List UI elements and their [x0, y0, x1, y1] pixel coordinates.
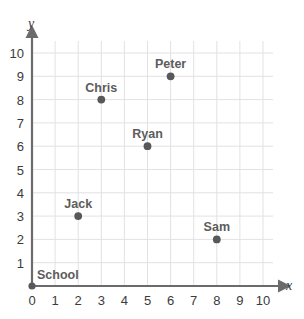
y-tick-label: 1 [0, 256, 24, 269]
data-point-dot [74, 212, 82, 220]
point-label: Sam [204, 221, 230, 234]
data-point-dot [144, 142, 152, 150]
axes [32, 36, 280, 286]
x-tick-label: 10 [256, 294, 270, 307]
y-tick-label: 7 [0, 116, 24, 129]
x-tick-label: 9 [236, 294, 243, 307]
y-tick-label: 8 [0, 93, 24, 106]
gridlines [32, 41, 273, 286]
y-tick-label: 9 [0, 70, 24, 83]
data-point-dot [97, 96, 105, 104]
y-tick-label: 6 [0, 140, 24, 153]
x-tick-label: 7 [190, 294, 197, 307]
point-label: Chris [85, 82, 117, 95]
data-point-dot [28, 282, 35, 289]
data-point-dot [213, 236, 221, 244]
point-label: Ryan [132, 128, 163, 141]
y-tick-label: 2 [0, 233, 24, 246]
x-tick-label: 3 [98, 294, 105, 307]
x-tick-label: 6 [167, 294, 174, 307]
y-axis-label: y [28, 17, 34, 31]
point-label: School [37, 269, 79, 282]
y-tick-label: 3 [0, 210, 24, 223]
point-label: Peter [155, 58, 186, 71]
x-tick-label: 5 [144, 294, 151, 307]
x-tick-label: 2 [75, 294, 82, 307]
x-tick-label: 0 [28, 294, 35, 307]
y-tick-label: 5 [0, 163, 24, 176]
x-axis-label: x [286, 279, 292, 293]
y-tick-label: 4 [0, 186, 24, 199]
data-point-dot [167, 72, 175, 80]
x-tick-label: 8 [213, 294, 220, 307]
y-tick-label: 10 [0, 47, 24, 60]
point-label: Jack [64, 198, 92, 211]
x-tick-label: 4 [121, 294, 128, 307]
x-tick-label: 1 [51, 294, 58, 307]
coordinate-plane-chart: 012345678910 12345678910 SchoolJackChris… [0, 0, 304, 319]
